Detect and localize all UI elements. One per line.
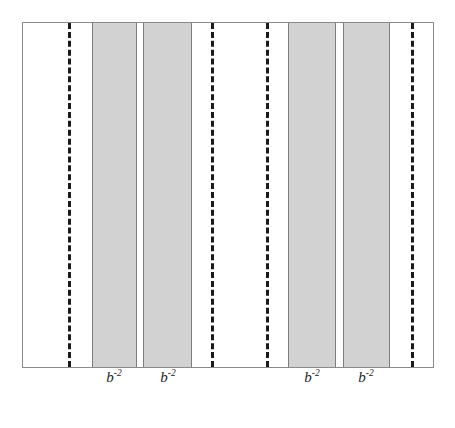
- band-label-3: b-2: [304, 369, 319, 386]
- band-label-4-exponent: -2: [366, 368, 374, 378]
- shaded-band-3: [288, 22, 336, 368]
- band-label-row: b-2 b-2 b-2 b-2: [0, 369, 455, 399]
- band-label-4-base: b: [358, 369, 366, 385]
- shaded-band-2: [143, 22, 192, 368]
- band-label-1: b-2: [106, 369, 121, 386]
- band-label-3-base: b: [304, 369, 312, 385]
- band-label-1-exponent: -2: [114, 368, 122, 378]
- band-label-3-exponent: -2: [312, 368, 320, 378]
- dashed-reference-line-2: [211, 23, 214, 367]
- dashed-reference-line-1: [68, 23, 71, 367]
- shaded-band-4: [343, 22, 390, 368]
- figure-canvas: b-2 b-2 b-2 b-2: [0, 0, 455, 428]
- shaded-band-1: [92, 22, 137, 368]
- band-label-2-base: b: [160, 369, 168, 385]
- plot-frame: [22, 22, 434, 368]
- dashed-reference-line-4: [411, 23, 414, 367]
- dashed-reference-line-3: [266, 23, 269, 367]
- band-label-2: b-2: [160, 369, 175, 386]
- band-label-2-exponent: -2: [168, 368, 176, 378]
- band-label-1-base: b: [106, 369, 114, 385]
- band-label-4: b-2: [358, 369, 373, 386]
